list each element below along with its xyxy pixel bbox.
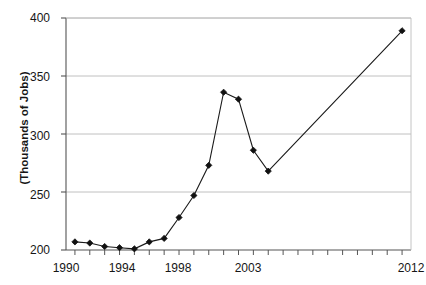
line-chart: (Thousands of Jobs) 400 350 300 250 200 … <box>0 0 426 285</box>
gridlines <box>66 18 411 192</box>
data-point <box>102 243 108 249</box>
data-series-markers <box>72 28 405 252</box>
data-point <box>131 246 137 252</box>
x-axis-ticks <box>75 250 402 255</box>
data-point <box>191 192 197 198</box>
y-axis-ticks <box>61 18 66 250</box>
data-point <box>206 162 212 168</box>
data-point <box>235 96 241 102</box>
data-point <box>87 240 93 246</box>
data-point <box>72 239 78 245</box>
data-series-line <box>75 31 402 249</box>
plot-area <box>0 0 426 285</box>
data-point <box>146 239 152 245</box>
data-point <box>221 89 227 95</box>
